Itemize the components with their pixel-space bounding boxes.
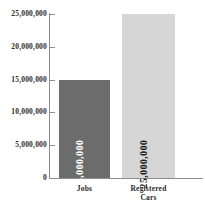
- y-tick-mark-0: [50, 178, 55, 179]
- y-axis-label-25000000: 25,000,000: [11, 10, 47, 18]
- y-tick-mark-5000000: [50, 145, 55, 146]
- y-tick-mark-10000000: [50, 112, 55, 113]
- y-tick-mark-25000000: [50, 14, 55, 15]
- y-tick-mark-20000000: [50, 47, 55, 48]
- y-axis-label-20000000: 20,000,000: [11, 43, 47, 51]
- y-axis-label-15000000: 15,000,000: [11, 76, 47, 84]
- bar-value-label-jobs: 15,000,000: [75, 140, 85, 189]
- bar-jobs: 15,000,000: [59, 80, 110, 178]
- x-axis-label-jobs-text: Jobs: [77, 184, 92, 193]
- x-axis-label-registered-cars: Registered Cars: [113, 184, 184, 202]
- chart-title-remnant: [0, 0, 205, 5]
- y-axis-label-5000000: 5,000,000: [15, 141, 47, 149]
- y-axis-label-10000000: 10,000,000: [11, 108, 47, 116]
- y-axis-label-0: 0: [43, 174, 47, 182]
- x-axis-label-registered-cars-line2: Cars: [140, 193, 156, 202]
- bar-value-label-registered-cars: 25,000,000: [139, 140, 149, 189]
- x-axis-label-jobs: Jobs: [59, 184, 110, 193]
- x-axis-label-registered-cars-line1: Registered: [130, 184, 166, 193]
- y-axis-line: [49, 13, 50, 179]
- x-axis-line: [49, 178, 203, 179]
- bar-registered-cars: 25,000,000: [122, 14, 175, 178]
- y-tick-mark-15000000: [50, 80, 55, 81]
- bar-chart: 25,000,000 20,000,000 15,000,000 10,000,…: [0, 0, 205, 209]
